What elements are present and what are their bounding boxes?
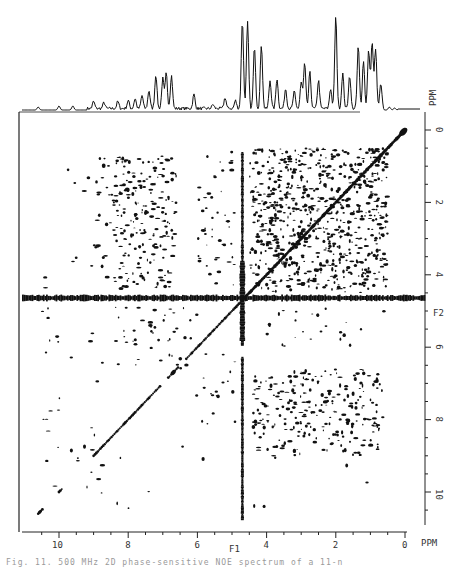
x-tick-label: 8: [125, 540, 130, 550]
y-tick-label: 8: [434, 417, 444, 422]
diagonal-peaks: [37, 126, 409, 515]
projection-trace: [22, 18, 420, 111]
y-tick-label: 2: [434, 199, 444, 204]
figure-caption: Fig. 11. 500 MHz 2D phase-sensitive NOE …: [6, 558, 343, 567]
top-1d-projection-spectrum: [22, 18, 420, 111]
y-tick-label: 6: [434, 344, 444, 349]
x-axis-unit-ppm: PPM: [421, 538, 438, 548]
x-tick-label: 0: [402, 540, 407, 550]
nmr-2d-spectrum-figure: PPM 1086420 F1 PPM 0246810 F2: [0, 0, 459, 569]
x-tick-label: 2: [333, 540, 338, 550]
x-axis-name-f1: F1: [229, 544, 240, 554]
y-tick-label: 4: [434, 272, 444, 277]
projection-ppm-label: PPM: [428, 89, 438, 106]
2d-contour-plot-area: [19, 112, 425, 532]
y-tick-label: 10: [434, 489, 444, 500]
y-axis-f2: 0246810: [425, 112, 444, 525]
x-tick-label: 4: [264, 540, 269, 550]
solvent-ridges: [22, 152, 425, 520]
x-tick-label: 6: [194, 540, 199, 550]
x-tick-label: 10: [52, 540, 63, 550]
y-tick-label: 0: [434, 127, 444, 132]
x-axis-f1: 1086420: [22, 532, 407, 550]
y-axis-name-f2: F2: [433, 308, 444, 318]
